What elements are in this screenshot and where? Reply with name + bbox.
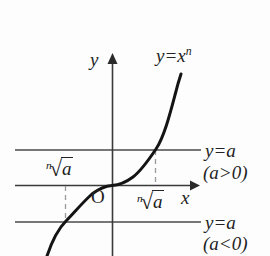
origin-label: O bbox=[91, 187, 105, 206]
upper-line-equation-label: y=a bbox=[205, 141, 236, 160]
x-axis-label: x bbox=[181, 188, 189, 207]
curve-label-exponent: n bbox=[186, 45, 192, 58]
y-axis-arrowhead bbox=[108, 53, 118, 64]
nth-root-right-label: n√a bbox=[137, 191, 164, 213]
upper-line-condition-label: (a>0) bbox=[203, 163, 247, 182]
curve-label-base: y=x bbox=[156, 45, 186, 66]
lower-line-condition-label: (a<0) bbox=[203, 234, 247, 253]
nth-root-left-radicand: a bbox=[61, 157, 74, 179]
nth-root-left-label: n√a bbox=[46, 158, 73, 180]
curve-label: y=xn bbox=[156, 46, 192, 65]
x-axis-arrowhead bbox=[190, 181, 200, 191]
power-function-figure: y x O y=xn y=a (a>0) y=a (a<0) n√a n√a bbox=[0, 0, 270, 256]
y-axis-label: y bbox=[90, 50, 98, 69]
nth-root-right-radicand: a bbox=[152, 190, 165, 212]
lower-line-equation-label: y=a bbox=[205, 213, 236, 232]
